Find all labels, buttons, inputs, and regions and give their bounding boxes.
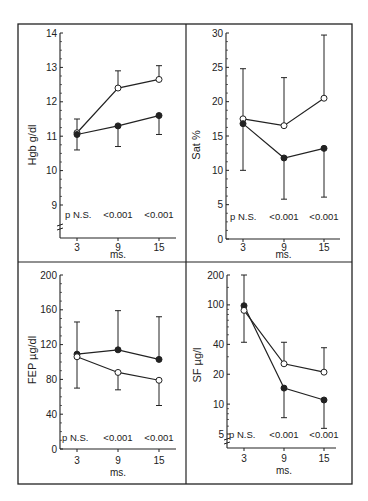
series-open (74, 354, 162, 406)
chart-panel-top-left: 910111213143915ms.Hgb g/dlp N.S.<0.001<0… (26, 28, 176, 261)
y-tick-label: 40 (46, 409, 58, 420)
y-tick-label: 100 (207, 299, 224, 310)
y-tick-label: 5 (217, 199, 223, 210)
y-tick-label: 0 (51, 444, 57, 455)
filled-circle-marker (115, 347, 121, 353)
series-filled (240, 121, 327, 200)
x-axis-label: ms. (110, 467, 126, 478)
y-axis-label: SF µg/l (191, 347, 203, 382)
p-value-label: p N.S. (230, 211, 256, 222)
p-value-label: p N.S. (229, 429, 255, 440)
open-circle-marker (74, 354, 80, 360)
y-tick-label: 20 (213, 369, 225, 380)
x-axis-label: ms. (275, 249, 291, 260)
y-tick-label: 80 (46, 374, 58, 385)
y-tick-label: 25 (212, 62, 224, 73)
x-axis-label: ms. (276, 465, 292, 476)
y-tick-label: 120 (40, 339, 57, 350)
filled-circle-marker (240, 121, 246, 127)
x-tick-label: 3 (74, 455, 80, 466)
x-tick-label: 9 (281, 453, 287, 464)
open-circle-marker (321, 95, 327, 101)
open-circle-marker (115, 369, 121, 375)
p-value-label: <0.001 (103, 209, 132, 220)
y-tick-label: 0 (217, 234, 223, 245)
filled-circle-marker (321, 397, 327, 403)
filled-circle-marker (281, 155, 287, 161)
x-tick-label: 3 (241, 453, 247, 464)
filled-circle-marker (281, 385, 287, 391)
y-axis-label: FEP µg/dl (26, 336, 38, 384)
open-circle-marker (241, 307, 247, 313)
y-tick-label: 13 (46, 62, 58, 73)
filled-circle-marker (74, 131, 80, 137)
figure-frame (18, 24, 352, 484)
p-value-label: <0.001 (269, 429, 298, 440)
y-tick-label: 200 (207, 270, 224, 281)
p-value-label: p N.S. (62, 432, 88, 443)
y-tick-label: 30 (212, 28, 224, 39)
open-circle-marker (321, 369, 327, 375)
open-circle-marker (281, 123, 287, 129)
series-open (241, 307, 327, 375)
open-circle-marker (156, 76, 162, 82)
y-tick-label: 160 (40, 304, 57, 315)
y-tick-label: 10 (212, 165, 224, 176)
x-tick-label: 3 (74, 242, 80, 253)
y-tick-label: 11 (47, 131, 58, 142)
p-value-label: <0.001 (144, 209, 173, 220)
series-filled (74, 311, 162, 363)
open-circle-marker (156, 377, 162, 383)
y-tick-label: 12 (46, 96, 58, 107)
chart-panel-top-right: 0510152025303915ms.Sat %p N.S.<0.001<0.0… (190, 28, 340, 261)
y-tick-label: 20 (212, 96, 224, 107)
x-tick-label: 15 (318, 453, 330, 464)
x-axis-label: ms. (110, 249, 126, 260)
y-axis-label: Hgb g/dl (26, 125, 38, 166)
x-tick-label: 15 (153, 455, 165, 466)
outer-border (18, 24, 352, 484)
series-open (240, 35, 327, 129)
open-circle-marker (115, 85, 121, 91)
p-value-label: <0.001 (309, 429, 338, 440)
x-tick-label: 15 (153, 242, 165, 253)
p-value-label: <0.001 (269, 211, 298, 222)
series-filled (74, 113, 162, 150)
y-tick-label: 200 (40, 270, 57, 281)
y-axis-label: Sat % (190, 130, 202, 160)
y-tick-label: 10 (213, 399, 225, 410)
x-tick-label: 9 (115, 455, 121, 466)
p-value-label: <0.001 (309, 211, 338, 222)
chart-panel-bottom-left: 040801201602003915ms.FEP µg/dlp N.S.<0.0… (26, 270, 176, 479)
p-value-label: <0.001 (103, 432, 132, 443)
p-value-label: p N.S. (65, 209, 91, 220)
open-circle-marker (281, 361, 287, 367)
x-tick-label: 3 (240, 242, 246, 253)
chart-panel-bottom-right: 51020401002003915ms.SF µg/lp N.S.<0.001<… (191, 270, 339, 477)
filled-circle-marker (156, 113, 162, 119)
p-value-label: <0.001 (144, 432, 173, 443)
x-tick-label: 15 (318, 242, 330, 253)
y-tick-label: 40 (213, 339, 225, 350)
figure: 910111213143915ms.Hgb g/dlp N.S.<0.001<0… (0, 0, 368, 501)
panels: 910111213143915ms.Hgb g/dlp N.S.<0.001<0… (26, 28, 340, 479)
y-tick-label: 9 (51, 200, 57, 211)
y-tick-label: 15 (212, 131, 224, 142)
filled-circle-marker (156, 356, 162, 362)
filled-circle-marker (115, 123, 121, 129)
filled-circle-marker (321, 145, 327, 151)
y-tick-label: 5 (218, 429, 224, 440)
y-tick-label: 14 (46, 28, 58, 39)
y-tick-label: 10 (46, 165, 58, 176)
